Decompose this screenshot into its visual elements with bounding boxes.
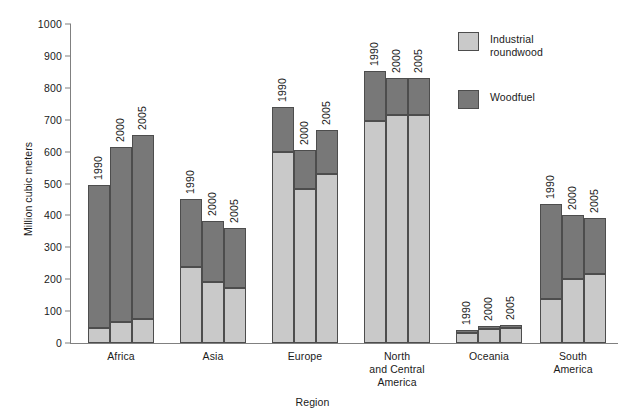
bar-segment-industrial-roundwood[interactable] bbox=[110, 322, 132, 343]
x-tick-label-europe: Europe bbox=[260, 350, 350, 363]
bar-year-label: 2000 bbox=[114, 118, 126, 142]
bar-year-label: 2005 bbox=[588, 189, 600, 213]
bar[interactable] bbox=[272, 107, 294, 343]
bar[interactable] bbox=[456, 330, 478, 343]
bar[interactable] bbox=[294, 150, 316, 343]
bar[interactable] bbox=[562, 215, 584, 343]
bar[interactable] bbox=[364, 71, 386, 343]
bar-segment-woodfuel[interactable] bbox=[316, 130, 338, 174]
bar-segment-industrial-roundwood[interactable] bbox=[202, 282, 224, 343]
y-tick-label-200: 200 bbox=[0, 273, 62, 285]
x-axis-line bbox=[70, 343, 618, 344]
bar[interactable] bbox=[316, 130, 338, 343]
y-tick-label-500: 500 bbox=[0, 178, 62, 190]
legend-item-woodfuel: Woodfuel bbox=[458, 90, 535, 109]
bar-segment-industrial-roundwood[interactable] bbox=[132, 319, 154, 343]
bar[interactable] bbox=[180, 199, 202, 343]
bar[interactable] bbox=[540, 204, 562, 343]
y-tick-label-0: 0 bbox=[0, 337, 62, 349]
legend-swatch-icon-industrial-roundwood bbox=[458, 32, 479, 51]
bar-year-label: 1990 bbox=[544, 174, 556, 198]
bar-year-label: 2000 bbox=[482, 297, 494, 321]
bar-year-label: 1990 bbox=[276, 78, 288, 102]
legend-item-industrial-roundwood: Industrial roundwood bbox=[458, 32, 543, 58]
bar-segment-woodfuel[interactable] bbox=[562, 215, 584, 279]
bar-segment-woodfuel[interactable] bbox=[500, 325, 522, 328]
bar-segment-industrial-roundwood[interactable] bbox=[386, 115, 408, 343]
bar-segment-woodfuel[interactable] bbox=[272, 107, 294, 152]
bar[interactable] bbox=[202, 221, 224, 343]
bar[interactable] bbox=[584, 218, 606, 343]
x-tick-label-south-america: South America bbox=[528, 350, 618, 376]
bar-segment-woodfuel[interactable] bbox=[202, 221, 224, 283]
bar-segment-woodfuel[interactable] bbox=[540, 204, 562, 300]
bar-group: 199020002005 bbox=[364, 24, 430, 343]
x-tick-label-asia: Asia bbox=[168, 350, 258, 363]
y-tick-label-300: 300 bbox=[0, 241, 62, 253]
bar-segment-woodfuel[interactable] bbox=[584, 218, 606, 274]
y-tick-label-1000: 1000 bbox=[0, 18, 62, 30]
bar-year-label: 2005 bbox=[136, 106, 148, 130]
bar-year-label: 2005 bbox=[412, 49, 424, 73]
bar-segment-industrial-roundwood[interactable] bbox=[88, 328, 110, 343]
bar[interactable] bbox=[110, 147, 132, 343]
bar-segment-woodfuel[interactable] bbox=[110, 147, 132, 321]
bar-segment-woodfuel[interactable] bbox=[408, 78, 430, 115]
bar-segment-woodfuel[interactable] bbox=[294, 150, 316, 189]
bar-segment-woodfuel[interactable] bbox=[478, 326, 500, 329]
bar-segment-woodfuel[interactable] bbox=[88, 185, 110, 328]
y-tick-label-900: 900 bbox=[0, 50, 62, 62]
bar[interactable] bbox=[132, 135, 154, 343]
bar-year-label: 2000 bbox=[566, 186, 578, 210]
bar-segment-woodfuel[interactable] bbox=[180, 199, 202, 267]
legend-label-woodfuel: Woodfuel bbox=[490, 91, 535, 104]
bar-segment-industrial-roundwood[interactable] bbox=[364, 121, 386, 343]
bar-group: 199020002005 bbox=[456, 24, 522, 343]
bar[interactable] bbox=[88, 185, 110, 343]
y-tick-label-100: 100 bbox=[0, 305, 62, 317]
bar-segment-industrial-roundwood[interactable] bbox=[562, 279, 584, 343]
x-tick-label-north-and-central-america: North and Central America bbox=[352, 350, 442, 389]
bar-year-label: 2005 bbox=[320, 101, 332, 125]
bar-year-label: 1990 bbox=[368, 42, 380, 66]
stacked-bar-chart: Million cubic meters 0100200300400500600… bbox=[0, 0, 625, 419]
bar-segment-industrial-roundwood[interactable] bbox=[180, 267, 202, 343]
bar[interactable] bbox=[500, 325, 522, 344]
bar-year-label: 1990 bbox=[92, 156, 104, 180]
bar-segment-woodfuel[interactable] bbox=[224, 228, 246, 288]
legend-label-industrial-roundwood: Industrial roundwood bbox=[490, 33, 543, 58]
bar-group: 199020002005 bbox=[180, 24, 246, 343]
bar[interactable] bbox=[386, 78, 408, 343]
bar-segment-industrial-roundwood[interactable] bbox=[456, 333, 478, 343]
bar-segment-woodfuel[interactable] bbox=[456, 330, 478, 333]
bar-segment-industrial-roundwood[interactable] bbox=[500, 328, 522, 343]
bar-year-label: 2000 bbox=[298, 121, 310, 145]
bar-segment-industrial-roundwood[interactable] bbox=[294, 189, 316, 343]
y-tick-label-400: 400 bbox=[0, 209, 62, 221]
bar-year-label: 2000 bbox=[390, 48, 402, 72]
bar-segment-industrial-roundwood[interactable] bbox=[272, 152, 294, 343]
bar-segment-industrial-roundwood[interactable] bbox=[584, 274, 606, 343]
bar-segment-woodfuel[interactable] bbox=[132, 135, 154, 319]
x-axis-title: Region bbox=[0, 396, 625, 408]
bar-segment-industrial-roundwood[interactable] bbox=[478, 329, 500, 343]
bar[interactable] bbox=[224, 228, 246, 343]
bar-segment-industrial-roundwood[interactable] bbox=[224, 288, 246, 343]
bar-segment-industrial-roundwood[interactable] bbox=[408, 115, 430, 343]
bar-segment-woodfuel[interactable] bbox=[386, 78, 408, 115]
plot-area: 1990200020051990200020051990200020051990… bbox=[70, 24, 618, 343]
bar-year-label: 2005 bbox=[228, 199, 240, 223]
bar-year-label: 1990 bbox=[460, 301, 472, 325]
bar[interactable] bbox=[478, 326, 500, 343]
bar-segment-industrial-roundwood[interactable] bbox=[540, 299, 562, 343]
bar[interactable] bbox=[408, 78, 430, 343]
y-tick-label-800: 800 bbox=[0, 82, 62, 94]
bar-segment-woodfuel[interactable] bbox=[364, 71, 386, 120]
bar-year-label: 2000 bbox=[206, 191, 218, 215]
bar-year-label: 2005 bbox=[504, 295, 516, 319]
bar-year-label: 1990 bbox=[184, 170, 196, 194]
bar-segment-industrial-roundwood[interactable] bbox=[316, 174, 338, 343]
bar-group: 199020002005 bbox=[88, 24, 154, 343]
x-tick-label-africa: Africa bbox=[76, 350, 166, 363]
bar-group: 199020002005 bbox=[540, 24, 606, 343]
